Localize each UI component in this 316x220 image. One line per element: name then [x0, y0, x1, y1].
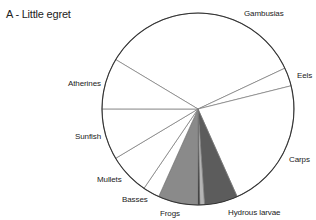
- slice-label-eels: Eels: [297, 71, 312, 80]
- slice-label-frogs: Frogs: [160, 209, 180, 218]
- slice-label-carps: Carps: [289, 155, 310, 164]
- slice-label-mullets: Mullets: [97, 175, 122, 184]
- slice-label-hydrous-larvae: Hydrous larvae: [228, 208, 280, 217]
- slice-label-sunfish: Sunfish: [75, 132, 101, 141]
- slice-label-gambusias: Gambusias: [244, 9, 284, 18]
- slice-label-basses: Basses: [122, 195, 148, 204]
- pie-chart: [0, 0, 316, 220]
- slice-label-atherines: Atherines: [68, 79, 101, 88]
